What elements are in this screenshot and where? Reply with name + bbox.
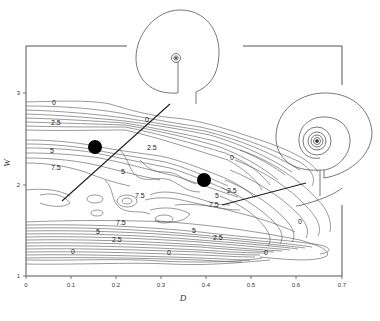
y-tick-1: 1 bbox=[17, 273, 21, 279]
contour-label: 0 bbox=[145, 116, 149, 123]
x-tick-5: 0.5 bbox=[247, 282, 256, 288]
y-tick-2: 2 bbox=[17, 182, 21, 188]
contour-lines bbox=[26, 101, 331, 264]
contour-label: 2.5 bbox=[227, 187, 237, 194]
contour-label: 2.5 bbox=[51, 119, 61, 126]
x-tick-1: 0.1 bbox=[67, 282, 76, 288]
x-tick-3: 0.3 bbox=[157, 282, 166, 288]
contour-label: 5 bbox=[121, 168, 125, 175]
x-tick-4: 0.4 bbox=[202, 282, 211, 288]
contour-label: 5 bbox=[50, 147, 54, 154]
contour-label: 5 bbox=[215, 192, 219, 199]
contour-label: 2.5 bbox=[147, 144, 157, 151]
shell-icon bbox=[276, 93, 372, 206]
y-axis-title: W bbox=[2, 158, 12, 167]
x-tick-2: 0.2 bbox=[112, 282, 121, 288]
x-tick-7: 0.7 bbox=[338, 282, 347, 288]
x-tick-labels: 0 0.1 0.2 0.3 0.4 0.5 0.6 0.7 bbox=[24, 282, 347, 288]
shell-icon bbox=[136, 10, 219, 104]
contour-label: 0 bbox=[167, 249, 171, 256]
contour-label: 5 bbox=[96, 228, 100, 235]
contour-label: 7.5 bbox=[135, 192, 145, 199]
contour-label: 5 bbox=[192, 227, 196, 234]
contour-figure: 0 0.1 0.2 0.3 0.4 0.5 0.6 0.7 D 1 2 3 W bbox=[0, 0, 380, 321]
y-tick-labels: 1 2 3 bbox=[17, 90, 21, 279]
leader-line bbox=[62, 104, 170, 201]
x-tick-6: 0.6 bbox=[292, 282, 301, 288]
x-tick-0: 0 bbox=[24, 282, 28, 288]
contour-label: 2.5 bbox=[112, 236, 122, 243]
contour-label: 0 bbox=[230, 154, 234, 161]
marker-dot bbox=[197, 173, 211, 187]
marker-dot bbox=[88, 140, 102, 154]
contour-label: 0 bbox=[71, 248, 75, 255]
x-axis-title: D bbox=[179, 293, 187, 303]
contour-label: 0 bbox=[298, 218, 302, 225]
contour-label: 7.5 bbox=[116, 219, 126, 226]
contour-label: 2.5 bbox=[213, 234, 223, 241]
y-tick-3: 3 bbox=[17, 90, 21, 96]
contour-label: 0 bbox=[264, 249, 268, 256]
contour-label: 7.5 bbox=[209, 201, 219, 208]
contour-label: 7.5 bbox=[51, 164, 61, 171]
contour-label: 0 bbox=[52, 99, 56, 106]
